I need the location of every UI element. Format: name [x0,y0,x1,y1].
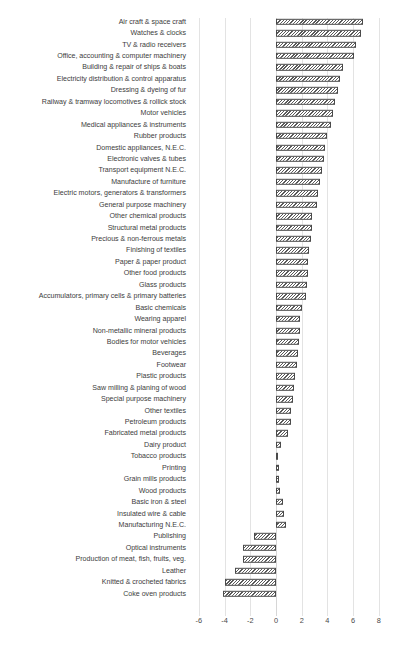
chart-row: General purpose machinery [0,199,397,210]
category-label: Glass products [139,281,186,289]
category-label: Special purpose machinery [101,395,186,403]
bar [276,362,297,368]
chart-row: Manufacture of furniture [0,176,397,187]
bar [276,419,291,425]
category-label: Leather [162,567,186,575]
chart-row: Structural metal products [0,222,397,233]
category-label: Basic chemicals [135,304,186,312]
bar [276,76,340,82]
bar [276,30,361,36]
bar [276,350,298,356]
bar [276,167,322,173]
category-label: Rubber products [134,132,186,140]
category-label: Knitted & crocheted fabrics [102,578,186,586]
category-label: Plastic products [136,372,186,380]
chart-row: Dressing & dyeing of fur [0,85,397,96]
category-label: Transport equipment N.E.C. [98,166,186,174]
chart-row: Beverages [0,348,397,359]
chart-row: Paper & paper product [0,256,397,267]
chart-row: Grain mills products [0,474,397,485]
chart-row: Saw milling & planing of wood [0,382,397,393]
bar [276,430,288,436]
category-label: Non-metallic mineral products [93,327,186,335]
x-tick-label: -4 [221,616,228,625]
chart-row: Wood products [0,485,397,496]
category-label: Insulated wire & cable [117,510,186,518]
category-label: Bodies for motor vehicles [107,338,186,346]
chart-row: Air craft & space craft [0,16,397,27]
bar [276,190,318,196]
bar [276,522,286,528]
category-label: Manufacture of furniture [111,178,186,186]
bar [276,316,300,322]
chart-row: Motor vehicles [0,108,397,119]
category-label: Railway & tramway locomotives & rollick … [42,98,186,106]
chart-row: Precious & non-ferrous metals [0,233,397,244]
bar [276,385,294,391]
category-label: Domestic appliances, N.E.C. [96,144,186,152]
bar [276,236,311,242]
chart-row: Special purpose machinery [0,393,397,404]
category-label: Optical instruments [126,544,186,552]
category-label: Structural metal products [108,224,186,232]
bar [276,224,312,230]
category-label: Air craft & space craft [119,18,186,26]
bar [276,247,309,253]
x-tick-label: 2 [300,616,304,625]
category-label: Precious & non-ferrous metals [91,235,186,243]
category-label: Manufacturing N.E.C. [119,521,186,529]
category-label: Other food products [124,269,186,277]
x-tick-label: 0 [274,616,278,625]
x-axis: -6-4-202468 [0,616,397,632]
chart-row: Finishing of textiles [0,245,397,256]
category-label: Footwear [157,361,186,369]
chart-row: Basic iron & steel [0,496,397,507]
x-tick-label: -2 [247,616,254,625]
bar [276,293,306,299]
category-label: Dressing & dyeing of fur [111,86,186,94]
chart-row: Glass products [0,279,397,290]
category-label: Saw milling & planing of wood [92,384,186,392]
chart-row: Non-metallic mineral products [0,325,397,336]
chart-row: Wearing apparel [0,313,397,324]
chart-row: Electricity distribution & control appar… [0,73,397,84]
category-label: Grain mills products [124,475,186,483]
category-label: Building & repair of ships & boats [82,63,186,71]
bar [276,327,300,333]
chart-row: Rubber products [0,130,397,141]
bar [223,590,276,596]
category-label: Medical appliances & instruments [81,121,186,129]
bar [276,304,302,310]
bar [276,213,312,219]
category-label: Accumulators, primary cells & primary ba… [39,292,186,300]
chart-row: Coke oven products [0,588,397,599]
category-label: General purpose machinery [99,201,186,209]
bar [243,556,276,562]
bar [276,453,278,459]
bar [276,202,317,208]
chart-row: Office, accounting & computer machinery [0,50,397,61]
bar [276,270,308,276]
chart-row: Domestic appliances, N.E.C. [0,142,397,153]
bar [276,179,320,185]
chart-row: Railway & tramway locomotives & rollick … [0,96,397,107]
chart-row: Petroleum products [0,416,397,427]
bar-rows: Air craft & space craftWatches & clocksT… [0,16,397,599]
bar [276,133,327,139]
chart-row: Footwear [0,359,397,370]
chart-row: Plastic products [0,371,397,382]
bar [276,99,335,105]
x-tick-label: -6 [196,616,203,625]
category-label: Fabricated metal products [104,429,186,437]
chart-row: Knitted & crocheted fabrics [0,576,397,587]
bar [276,373,295,379]
category-label: Wearing apparel [134,315,186,323]
category-label: TV & radio receivers [122,41,186,49]
category-label: Office, accounting & computer machinery [57,52,186,60]
category-label: Other textiles [144,407,186,415]
category-label: Electricity distribution & control appar… [57,75,186,83]
x-tick-label: 4 [325,616,329,625]
horizontal-bar-chart: Air craft & space craftWatches & clocksT… [0,0,397,657]
category-label: Finishing of textiles [126,246,186,254]
category-label: Electronic valves & tubes [107,155,186,163]
